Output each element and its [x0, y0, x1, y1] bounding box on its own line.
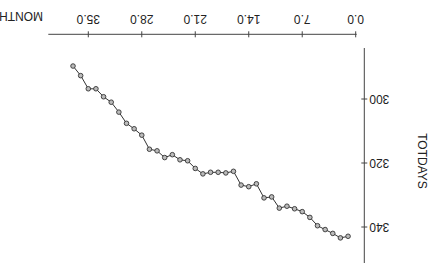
x-tick-label: 7.0: [294, 12, 311, 26]
data-point-marker: [208, 170, 213, 175]
x-axis-label: MONTH: [0, 9, 43, 23]
plot-area: [71, 64, 351, 240]
data-point-marker: [117, 110, 122, 115]
data-point-marker: [292, 206, 297, 211]
x-tick-label: 35.0: [76, 12, 100, 26]
data-point-marker: [71, 64, 76, 69]
chart-canvas: 0.07.014.021.028.035.0300320340 MONTH TO…: [0, 0, 438, 272]
data-point-marker: [300, 209, 305, 214]
data-point-marker: [277, 206, 282, 211]
data-point-marker: [101, 94, 106, 99]
data-point-marker: [109, 100, 114, 105]
x-tick-label: 0.0: [347, 12, 364, 26]
data-point-marker: [224, 171, 229, 176]
data-point-marker: [308, 215, 313, 220]
series-line: [73, 66, 348, 238]
data-point-marker: [132, 126, 137, 131]
data-point-marker: [330, 231, 335, 236]
axes: 0.07.014.021.028.035.0300320340: [48, 12, 389, 263]
data-point-marker: [338, 236, 343, 241]
data-point-marker: [346, 234, 351, 239]
data-point-marker: [147, 147, 152, 152]
data-point-marker: [239, 183, 244, 188]
data-point-marker: [231, 169, 236, 174]
data-point-marker: [262, 196, 267, 201]
y-tick-label: 300: [369, 92, 389, 106]
data-point-marker: [201, 172, 206, 177]
data-point-marker: [269, 195, 274, 200]
x-tick-label: 14.0: [237, 12, 261, 26]
line-chart: 0.07.014.021.028.035.0300320340 MONTH TO…: [0, 0, 438, 272]
data-point-marker: [246, 184, 251, 189]
y-tick-label: 320: [369, 156, 389, 170]
data-point-marker: [285, 204, 290, 209]
x-tick-label: 28.0: [130, 12, 154, 26]
data-point-marker: [178, 158, 183, 163]
data-point-marker: [315, 223, 320, 228]
x-tick-label: 21.0: [183, 12, 207, 26]
data-point-marker: [185, 158, 190, 163]
data-point-marker: [94, 86, 99, 91]
y-axis-label: TOTDAYS: [415, 133, 429, 189]
data-point-marker: [323, 227, 328, 232]
data-point-marker: [216, 170, 221, 175]
data-point-marker: [155, 149, 160, 154]
data-point-marker: [86, 86, 91, 91]
data-point-marker: [78, 73, 83, 78]
data-point-marker: [162, 155, 167, 160]
data-point-marker: [254, 182, 259, 187]
data-point-marker: [139, 133, 144, 138]
data-point-marker: [170, 152, 175, 157]
data-point-marker: [193, 166, 198, 171]
data-point-marker: [124, 121, 129, 126]
y-tick-label: 340: [369, 220, 389, 234]
